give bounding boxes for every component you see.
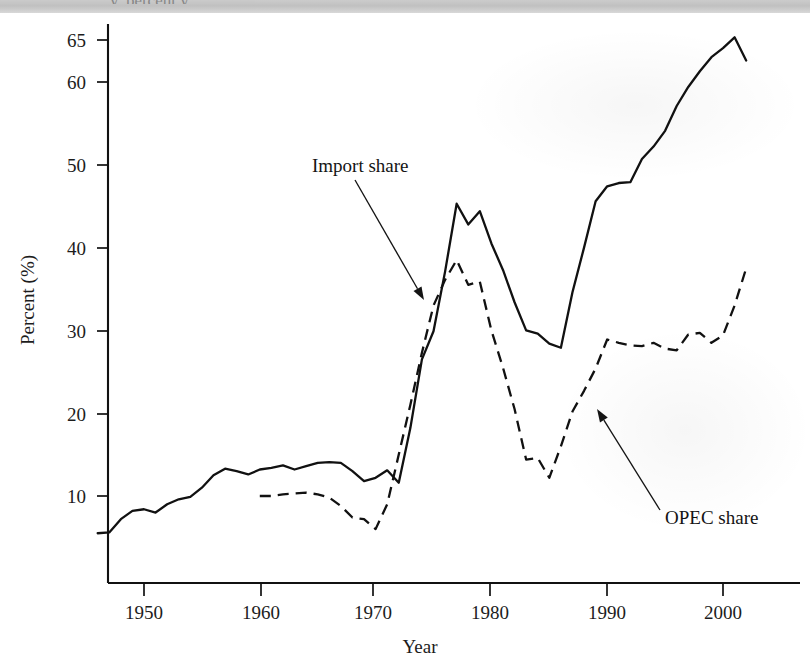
y-tick-label: 20 bbox=[67, 404, 86, 425]
x-tick-label: 1970 bbox=[354, 602, 392, 623]
annotation-label: OPEC share bbox=[665, 507, 758, 528]
y-axis-tick-labels: 65 60 50 40 30 20 10 bbox=[67, 30, 86, 507]
line-chart: 65 60 50 40 30 20 10 1950 1960 1970 1980… bbox=[0, 0, 810, 663]
series-opec-share bbox=[260, 260, 746, 529]
y-tick-label: 30 bbox=[67, 321, 86, 342]
annotation-import-share: Import share bbox=[312, 155, 424, 300]
y-axis-title: Percent (%) bbox=[17, 255, 39, 345]
x-axis-ticks bbox=[144, 583, 723, 596]
x-tick-label: 1990 bbox=[588, 602, 626, 623]
series-import-share bbox=[98, 37, 746, 533]
y-tick-label: 60 bbox=[67, 72, 86, 93]
arrowhead-icon bbox=[597, 409, 608, 422]
annotation-label: Import share bbox=[312, 155, 409, 176]
x-tick-label: 1960 bbox=[242, 602, 280, 623]
y-axis-ticks bbox=[97, 40, 108, 496]
y-tick-label: 10 bbox=[67, 486, 86, 507]
annotation-opec-share: OPEC share bbox=[597, 409, 758, 528]
y-tick-label: 50 bbox=[67, 155, 86, 176]
y-tick-label: 65 bbox=[67, 30, 86, 51]
x-axis-tick-labels: 1950 1960 1970 1980 1990 2000 bbox=[125, 602, 742, 623]
x-tick-label: 1980 bbox=[471, 602, 509, 623]
arrowhead-icon bbox=[414, 286, 424, 300]
y-tick-label: 40 bbox=[67, 238, 86, 259]
x-tick-label: 1950 bbox=[125, 602, 163, 623]
chart-page: y, percent y 65 60 50 40 30 20 10 bbox=[0, 0, 810, 663]
x-axis-title: Year bbox=[402, 636, 438, 657]
x-tick-label: 2000 bbox=[704, 602, 742, 623]
